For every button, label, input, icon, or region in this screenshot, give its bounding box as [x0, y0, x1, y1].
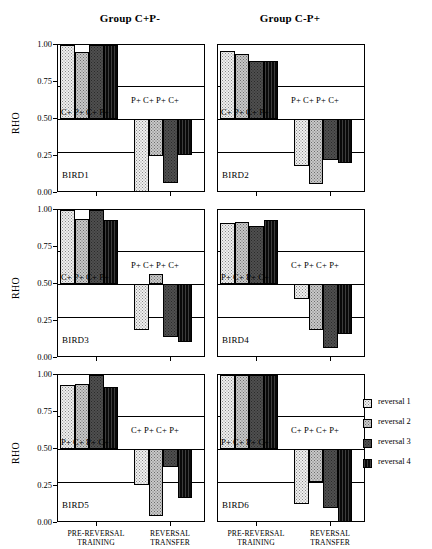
x-caption-line1: PRE-REVERSAL [68, 529, 125, 538]
y-axis-label: RHO [10, 112, 21, 134]
bar-bird2-transfer-reversal-3 [323, 119, 338, 160]
y-tick-label: 1.00 [25, 39, 52, 49]
x-tick-mark [330, 522, 331, 526]
x-tick-mark [170, 357, 171, 361]
bar-bird5-transfer-reversal-3 [163, 449, 178, 467]
y-tick-label: 0.75 [25, 76, 52, 86]
x-axis-caption: REVERSALTRANSFER [290, 529, 370, 547]
bar-bird2-transfer-reversal-1 [294, 119, 309, 166]
x-caption-line2: TRAINING [77, 538, 115, 547]
figure-canvas: Group C+P- Group C-P+ C+ P+ C+ P+P+ C+ P… [0, 0, 432, 549]
y-tick-mark [53, 357, 57, 358]
x-tick-mark [96, 522, 97, 526]
y-tick-label: 0.25 [25, 480, 52, 490]
annotation-transfer-bird1: P+ C+ P+ C+ [131, 95, 179, 105]
y-axis-label: RHO [10, 442, 21, 464]
panel-bird1: C+ P+ C+ P+P+ C+ P+ C+BIRD1 [57, 44, 205, 192]
legend-swatch-reversal-3 [363, 439, 372, 448]
y-tick-label: 0.75 [25, 406, 52, 416]
annotation-transfer-bird2: P+ C+ P+ C+ [291, 95, 339, 105]
x-caption-line2: TRANSFER [310, 538, 350, 547]
y-tick-label: 0.00 [25, 187, 52, 197]
x-caption-line1: PRE-REVERSAL [228, 529, 285, 538]
panel-bird3: C+ P+ C+ P+P+ C+ P+ C+BIRD3 [57, 209, 205, 357]
y-tick-mark [53, 485, 57, 486]
panel-bird2: C+ P+ C+ P+P+ C+ P+ C+BIRD2 [217, 44, 365, 192]
bar-bird5-transfer-reversal-4 [178, 449, 193, 498]
y-tick-mark [53, 283, 57, 284]
x-tick-mark [330, 192, 331, 196]
x-caption-line1: REVERSAL [310, 529, 350, 538]
y-tick-mark [53, 118, 57, 119]
x-axis-caption: REVERSALTRANSFER [130, 529, 210, 547]
annotation-transfer-bird4: C+ P+ C+ P+ [291, 260, 339, 270]
annotation-transfer-bird6: C+ P+ C+ P+ [291, 425, 339, 435]
bar-bird3-transfer-reversal-2 [149, 274, 164, 284]
y-tick-mark [53, 246, 57, 247]
x-tick-mark [170, 192, 171, 196]
bar-bird3-transfer-reversal-1 [134, 284, 149, 330]
y-axis-label: RHO [10, 277, 21, 299]
x-tick-mark [170, 522, 171, 526]
group-title-right: Group C-P+ [215, 12, 365, 24]
x-tick-mark [96, 357, 97, 361]
annotation-transfer-bird5: C+ P+ C+ P+ [131, 425, 179, 435]
y-tick-label: 0.50 [25, 278, 52, 288]
x-caption-line2: TRANSFER [150, 538, 190, 547]
annotation-training-bird3: C+ P+ C+ P+ [61, 272, 109, 282]
x-tick-mark [256, 522, 257, 526]
panel-label-bird2: BIRD2 [222, 170, 249, 180]
x-axis-caption: PRE-REVERSALTRAINING [56, 529, 136, 547]
annotation-transfer-bird3: P+ C+ P+ C+ [131, 260, 179, 270]
bar-bird5-transfer-reversal-1 [134, 449, 149, 485]
bar-bird4-transfer-reversal-3 [323, 284, 338, 348]
panel-bird6: P+ C+ P+ C+C+ P+ C+ P+BIRD6 [217, 374, 365, 522]
panel-bird5: P+ C+ P+ C+C+ P+ C+ P+BIRD5 [57, 374, 205, 522]
legend-swatch-reversal-1 [363, 399, 372, 408]
bar-bird6-transfer-reversal-1 [294, 449, 309, 504]
bar-bird6-transfer-reversal-4 [338, 449, 353, 522]
bar-bird4-transfer-reversal-1 [294, 284, 309, 299]
bar-bird2-transfer-reversal-2 [309, 119, 324, 184]
y-tick-mark [53, 81, 57, 82]
x-caption-line2: TRAINING [237, 538, 275, 547]
y-tick-label: 0.75 [25, 241, 52, 251]
y-tick-mark [53, 192, 57, 193]
y-tick-label: 0.25 [25, 315, 52, 325]
panel-label-bird3: BIRD3 [62, 335, 89, 345]
y-tick-label: 1.00 [25, 204, 52, 214]
panel-label-bird1: BIRD1 [62, 170, 89, 180]
annotation-training-bird2: C+ P+ C+ P+ [221, 107, 269, 117]
panel-label-bird4: BIRD4 [222, 335, 249, 345]
legend-label-reversal-3: reversal 3 [378, 437, 411, 446]
bar-bird4-transfer-reversal-4 [338, 284, 353, 334]
bar-bird3-transfer-reversal-4 [178, 284, 193, 342]
bar-bird1-transfer-reversal-4 [178, 119, 193, 155]
annotation-training-bird6: P+ C+ P+ C+ [221, 437, 269, 447]
bar-bird5-transfer-reversal-2 [149, 449, 164, 516]
bar-bird6-transfer-reversal-2 [309, 449, 324, 482]
y-tick-label: 0.00 [25, 352, 52, 362]
bar-bird1-transfer-reversal-1 [134, 119, 149, 192]
annotation-training-bird4: P+ C+ P+ C+ [221, 272, 269, 282]
panel-bird4: P+ C+ P+ C+C+ P+ C+ P+BIRD4 [217, 209, 365, 357]
y-tick-mark [53, 44, 57, 45]
group-title-left: Group C+P- [55, 12, 205, 24]
y-tick-label: 0.00 [25, 517, 52, 527]
y-tick-mark [53, 522, 57, 523]
bar-bird2-transfer-reversal-4 [338, 119, 353, 163]
y-tick-mark [53, 209, 57, 210]
legend-label-reversal-1: reversal 1 [378, 397, 411, 406]
annotation-training-bird5: P+ C+ P+ C+ [61, 437, 109, 447]
x-tick-mark [96, 192, 97, 196]
y-tick-label: 0.25 [25, 150, 52, 160]
bar-bird1-transfer-reversal-2 [149, 119, 164, 156]
panel-label-bird5: BIRD5 [62, 500, 89, 510]
legend-label-reversal-4: reversal 4 [378, 457, 411, 466]
bar-bird1-transfer-reversal-3 [163, 119, 178, 183]
annotation-training-bird1: C+ P+ C+ P+ [61, 107, 109, 117]
bar-bird6-transfer-reversal-3 [323, 449, 338, 508]
legend-label-reversal-2: reversal 2 [378, 417, 411, 426]
y-tick-label: 0.50 [25, 443, 52, 453]
y-tick-mark [53, 411, 57, 412]
